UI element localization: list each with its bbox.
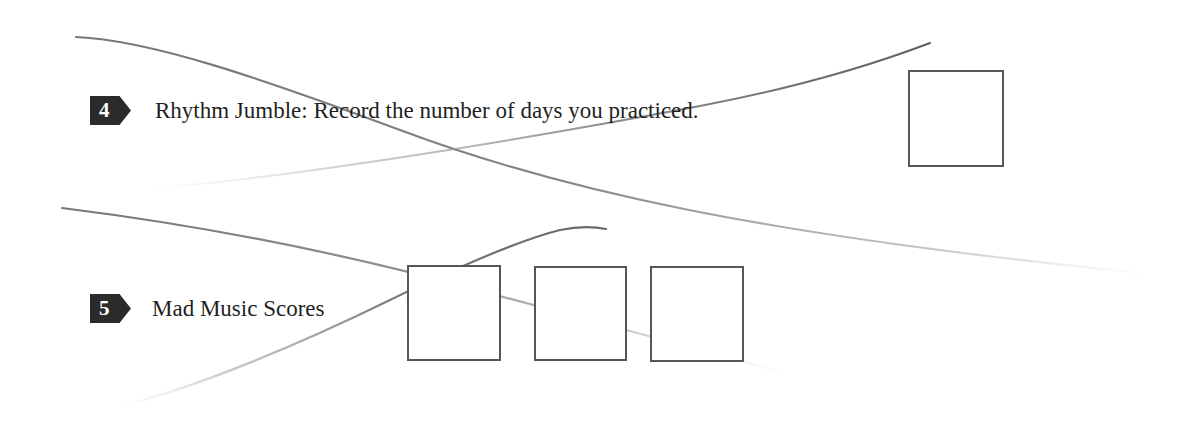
item-text-5: Mad Music Scores — [152, 294, 324, 323]
answer-box-item5-3[interactable] — [650, 266, 744, 362]
scan-artifact-layer — [0, 0, 1185, 442]
item-number-badge-5: 5 — [90, 294, 131, 323]
worksheet-page: 4 Rhythm Jumble: Record the number of da… — [0, 0, 1185, 442]
answer-box-item5-2[interactable] — [534, 266, 627, 361]
item-number-badge-4: 4 — [90, 96, 131, 125]
answer-box-item4-1[interactable] — [908, 70, 1004, 167]
answer-box-item5-1[interactable] — [407, 265, 501, 361]
item-text-4: Rhythm Jumble: Record the number of days… — [155, 96, 699, 125]
worksheet-item-4: 4 Rhythm Jumble: Record the number of da… — [90, 96, 699, 125]
worksheet-item-5: 5 Mad Music Scores — [90, 294, 324, 323]
